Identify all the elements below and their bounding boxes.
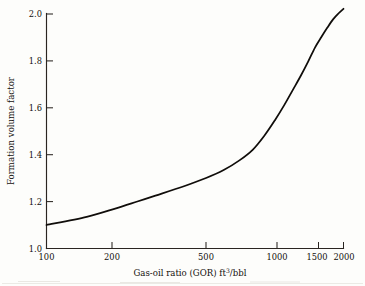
x-tick-label-500: 500 <box>198 252 214 262</box>
scan-artifact-group <box>2 281 363 284</box>
y-tick-label-1-4: 1.4 <box>29 150 42 160</box>
y-tick-label-1-6: 1.6 <box>29 103 42 113</box>
x-tick-label-100: 100 <box>39 252 55 262</box>
chart-canvas: 2.0 1.8 1.6 1.4 1.2 1.0 Formation volume… <box>0 0 365 286</box>
formation-volume-factor-curve <box>47 9 344 225</box>
x-axis: 100 200 500 1000 1500 2000 Gas-oil ratio… <box>39 242 355 278</box>
x-axis-title-main: Gas-oil ratio (GOR) ft <box>133 268 226 278</box>
x-tick-label-200: 200 <box>104 252 120 262</box>
x-tick-label-1000: 1000 <box>266 252 287 262</box>
figure-container: 2.0 1.8 1.6 1.4 1.2 1.0 Formation volume… <box>0 0 365 286</box>
y-tick-label-2-0: 2.0 <box>29 9 42 19</box>
x-tick-label-1500: 1500 <box>306 252 327 262</box>
y-axis: 2.0 1.8 1.6 1.4 1.2 1.0 Formation volume… <box>6 9 53 254</box>
x-axis-title: Gas-oil ratio (GOR) ft3/bbl <box>133 267 246 278</box>
y-tick-label-1-8: 1.8 <box>29 56 42 66</box>
x-axis-title-tail: /bbl <box>230 268 247 278</box>
x-tick-label-2000: 2000 <box>333 252 354 262</box>
y-tick-label-1-2: 1.2 <box>29 197 42 207</box>
y-axis-title: Formation volume factor <box>6 76 16 185</box>
